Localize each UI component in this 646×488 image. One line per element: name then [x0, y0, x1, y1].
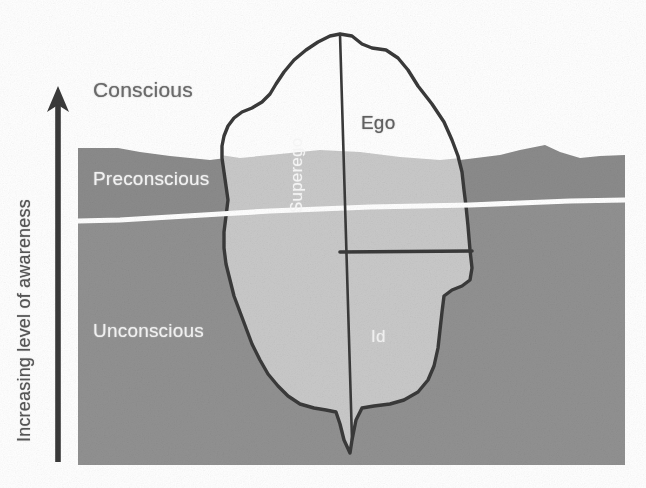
iceberg-diagram: [0, 0, 646, 488]
divider-horizontal: [340, 251, 472, 252]
freud-iceberg-figure: Conscious Preconscious Unconscious Ego S…: [0, 0, 646, 488]
